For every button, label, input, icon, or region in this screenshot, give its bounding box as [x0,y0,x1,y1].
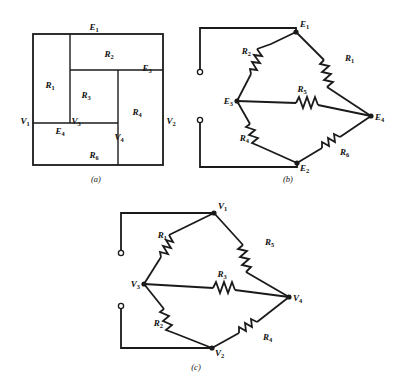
branch-c-r4 [212,297,289,348]
label-V4: V4 [114,132,124,143]
wire-v3-r1 [144,257,161,284]
terminal-bottom-c[interactable] [118,303,123,308]
label-V2: V2 [215,348,224,359]
node-E3 [234,98,239,103]
node-E4 [368,113,373,118]
panel-a: E1 R2 E3 R1 R3 R4 V1 V3 V2 E4 V4 R6 (a) [0,0,200,195]
wire-r4-v4 [257,297,289,322]
wire-r1-v1 [169,213,214,235]
panel-b-labels: E1 E3 E4 E2 R2 R1 R5 R4 R6 [223,19,385,174]
label-R6: R6 [88,150,99,161]
label-V3: V3 [71,116,80,127]
wire-v3-r3 [144,284,213,288]
wire-r3-v4 [235,290,289,297]
label-R2: R2 [153,318,163,329]
panel-a-labels: E1 R2 E3 R1 R3 R4 V1 V3 V2 E4 V4 R6 [20,22,175,161]
branch-b-r1 [296,32,371,116]
label-V1: V1 [20,116,29,127]
branch-b-r6 [297,116,371,163]
label-R6: R6 [339,147,350,158]
label-E3: E3 [223,96,233,107]
label-R3: R3 [80,90,90,101]
panel-b: E1 E3 E4 E2 R2 R1 R5 R4 R6 (b) [190,0,394,195]
wire-e1-r1 [296,32,324,60]
resistor-c-r4 [239,319,257,333]
branch-c-r2 [144,284,212,348]
panel-c-nodes [141,210,291,350]
panel-a-internal-edges [33,34,163,165]
node-E2 [294,160,299,165]
node-V1 [211,210,216,215]
wire-v3-r2 [144,284,164,309]
wire-e2-r6 [297,148,322,163]
panel-c: V1 V3 V4 V2 R1 R5 R3 R2 R4 (c) [100,195,320,377]
resistor-b-r1 [320,60,333,87]
resistor-c-r3 [213,282,235,293]
branch-b-r4 [237,101,297,163]
label-E1: E1 [88,22,98,33]
label-R5: R5 [264,237,274,248]
resistor-b-r6 [322,134,340,148]
label-R4: R4 [262,332,273,343]
panel-c-labels: V1 V3 V4 V2 R1 R5 R3 R2 R4 [131,201,303,359]
label-V2: V2 [166,116,175,127]
label-R1: R1 [344,53,354,64]
wire-r2-v2 [174,333,212,348]
label-R3: R3 [216,269,226,280]
label-R4: R4 [131,107,142,118]
node-E1 [293,29,298,34]
node-V2 [209,345,214,350]
resistor-b-r2 [250,49,262,74]
caption-b: (b) [283,174,293,184]
branch-b-r5 [237,97,371,116]
label-R1: R1 [157,230,167,241]
wire-v1-r5 [214,213,243,245]
label-R2: R2 [103,49,113,60]
label-V4: V4 [293,293,303,304]
label-E1: E1 [299,19,309,30]
terminal-top-b[interactable] [197,69,202,74]
outer-rectangle [33,34,163,165]
wire-e3-r4 [237,101,250,124]
caption-c: (c) [191,362,201,372]
label-R5: R5 [296,84,306,95]
wire-v2-r4 [212,333,239,348]
branch-b-r2 [237,32,296,101]
wire-e3-r2 [237,74,251,101]
label-V3: V3 [131,279,140,290]
wire-r2-e1 [257,32,296,49]
wire-r4-e2 [259,146,297,163]
label-V1: V1 [218,201,227,212]
label-E2: E2 [299,163,309,174]
label-R2: R2 [241,46,251,57]
panel-a-outer-frame [33,34,163,165]
wire-r5-v4 [246,272,289,297]
terminal-bottom-b[interactable] [197,117,202,122]
caption-a: (a) [91,174,101,184]
label-E4: E4 [374,112,385,123]
terminal-top-c[interactable] [118,250,123,255]
wire-r6-e4 [340,116,371,137]
figure-root: E1 R2 E3 R1 R3 R4 V1 V3 V2 E4 V4 R6 (a) [0,0,394,377]
wire-e3-r5 [237,101,296,103]
node-V3 [141,281,146,286]
label-E4: E4 [54,126,65,137]
node-V4 [286,294,291,299]
branch-c-r1 [144,213,214,284]
label-E3: E3 [141,63,151,74]
resistor-c-r5 [238,245,251,272]
resistor-b-r5 [296,97,318,108]
resistor-c-r2 [160,309,174,333]
label-R1: R1 [44,80,54,91]
